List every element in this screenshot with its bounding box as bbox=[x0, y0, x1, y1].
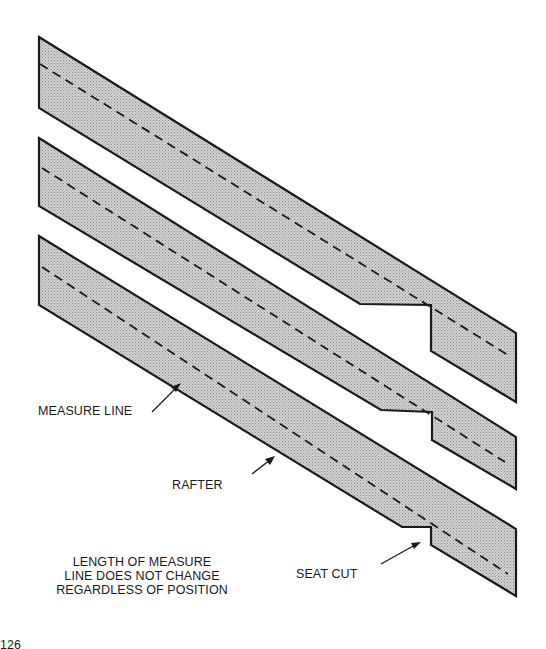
caption-line-3: REGARDLESS OF POSITION bbox=[38, 583, 246, 597]
page-number: 126 bbox=[0, 638, 21, 649]
caption-line-2: LINE DOES NOT CHANGE bbox=[38, 569, 246, 583]
seat-cut-leader bbox=[381, 542, 421, 564]
measure-line-leader bbox=[152, 383, 181, 412]
rafter-arrowhead-icon bbox=[265, 456, 275, 465]
measure-line-label: MEASURE LINE bbox=[38, 404, 132, 418]
caption-line-1: LENGTH OF MEASURE bbox=[38, 555, 246, 569]
rafter-measure-line-diagram bbox=[0, 0, 546, 649]
seat-cut-arrowhead-icon bbox=[411, 542, 421, 549]
rafter-label: RAFTER bbox=[172, 478, 223, 492]
rafter-leader bbox=[252, 456, 275, 474]
figure-caption: LENGTH OF MEASURE LINE DOES NOT CHANGE R… bbox=[38, 555, 246, 597]
seat-cut-label: SEAT CUT bbox=[296, 567, 357, 581]
